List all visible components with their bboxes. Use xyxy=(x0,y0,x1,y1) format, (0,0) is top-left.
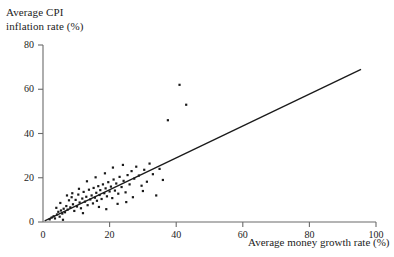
data-point xyxy=(82,212,84,214)
data-point xyxy=(94,197,96,199)
data-point xyxy=(138,174,140,176)
data-points xyxy=(49,84,188,221)
data-point xyxy=(99,194,101,196)
data-point xyxy=(63,208,65,210)
y-axis-ticks xyxy=(38,45,43,222)
data-point xyxy=(107,181,109,183)
data-point xyxy=(79,201,81,203)
data-point xyxy=(73,210,75,212)
data-point xyxy=(84,201,86,203)
data-point xyxy=(69,206,71,208)
data-point xyxy=(71,196,73,198)
data-point xyxy=(78,188,80,190)
data-point xyxy=(105,208,107,210)
data-point xyxy=(111,197,113,199)
data-point xyxy=(65,205,67,207)
data-point xyxy=(68,199,70,201)
data-point xyxy=(162,179,164,181)
x-axis-tick-label: 40 xyxy=(164,229,188,240)
data-point xyxy=(54,217,56,219)
data-point xyxy=(140,185,142,187)
data-point xyxy=(122,180,124,182)
data-point xyxy=(124,191,126,193)
data-point xyxy=(167,119,169,121)
data-point xyxy=(95,176,97,178)
data-point xyxy=(106,195,108,197)
data-point xyxy=(130,170,132,172)
data-point xyxy=(117,193,119,195)
data-point xyxy=(105,187,107,189)
data-point xyxy=(178,84,180,86)
data-point xyxy=(143,169,145,171)
data-point xyxy=(133,178,135,180)
data-point xyxy=(71,192,73,194)
data-point xyxy=(87,204,89,206)
data-point xyxy=(76,205,78,207)
y-axis-tick-label: 60 xyxy=(12,83,34,94)
data-point xyxy=(110,186,112,188)
data-point xyxy=(85,196,87,198)
data-point xyxy=(53,215,55,217)
data-point xyxy=(91,194,93,196)
data-point xyxy=(118,176,120,178)
data-point xyxy=(96,200,98,202)
data-point xyxy=(61,212,63,214)
x-axis-tick-label: 80 xyxy=(297,229,321,240)
data-point xyxy=(60,209,62,211)
data-point xyxy=(72,203,74,205)
data-point xyxy=(55,207,57,209)
data-point xyxy=(135,166,137,168)
data-point xyxy=(142,190,144,192)
data-point xyxy=(62,219,64,221)
axes-group xyxy=(43,45,376,222)
data-point xyxy=(89,198,91,200)
data-point xyxy=(116,203,118,205)
data-point xyxy=(102,183,104,185)
x-axis-tick-label: 20 xyxy=(98,229,122,240)
data-point xyxy=(122,164,124,166)
data-point xyxy=(126,174,128,176)
data-point xyxy=(103,192,105,194)
data-point xyxy=(57,211,59,213)
data-point xyxy=(80,207,82,209)
data-point xyxy=(146,181,148,183)
data-point xyxy=(125,201,127,203)
x-axis-ticks xyxy=(110,222,376,227)
data-point xyxy=(158,168,160,170)
y-axis-tick-label: 40 xyxy=(12,128,34,139)
data-point xyxy=(115,182,117,184)
data-point xyxy=(99,189,101,191)
data-point xyxy=(152,173,154,175)
y-axis-tick-label: 20 xyxy=(12,172,34,183)
x-axis-tick-label: 0 xyxy=(31,229,55,240)
plot-area xyxy=(0,0,394,257)
regression-line xyxy=(45,69,361,221)
data-point xyxy=(49,218,51,220)
data-point xyxy=(86,180,88,182)
data-point xyxy=(98,206,100,208)
data-point xyxy=(112,166,114,168)
data-point xyxy=(101,198,103,200)
y-axis-tick-label: 80 xyxy=(12,39,34,50)
data-point xyxy=(51,216,53,218)
data-point xyxy=(95,192,97,194)
data-point xyxy=(66,194,68,196)
data-point xyxy=(64,211,66,213)
data-point xyxy=(120,186,122,188)
data-point xyxy=(155,194,157,196)
data-point xyxy=(114,189,116,191)
data-point xyxy=(56,213,58,215)
data-point xyxy=(88,189,90,191)
data-point xyxy=(97,185,99,187)
data-point xyxy=(59,202,61,204)
data-point xyxy=(185,104,187,106)
data-point xyxy=(128,183,130,185)
data-point xyxy=(83,191,85,193)
data-point xyxy=(59,216,61,218)
data-point xyxy=(93,187,95,189)
data-point xyxy=(92,202,94,204)
data-point xyxy=(81,197,83,199)
data-point xyxy=(67,209,69,211)
data-point xyxy=(104,172,106,174)
data-point xyxy=(148,162,150,164)
